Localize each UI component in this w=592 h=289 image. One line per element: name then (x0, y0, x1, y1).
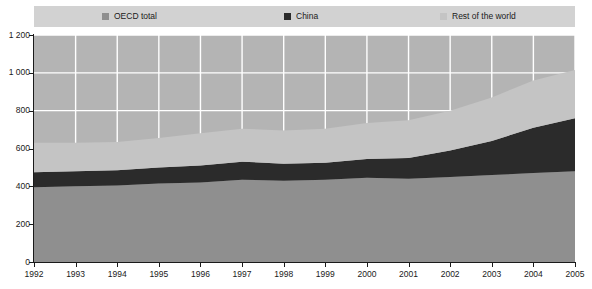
x-tick-label-2004: 2004 (513, 270, 553, 279)
x-tick-2003 (492, 263, 493, 267)
y-tick-200 (29, 224, 34, 225)
legend-item-china[interactable]: China (284, 6, 318, 27)
x-tick-label-2003: 2003 (472, 270, 512, 279)
x-axis-line (33, 262, 576, 263)
x-tick-label-1993: 1993 (56, 270, 96, 279)
x-tick-label-2000: 2000 (347, 270, 387, 279)
y-axis-tick-labels: 02004006008001 0001 200 (0, 0, 30, 289)
y-tick-label-0: 0 (0, 258, 30, 267)
chart-figure: OECD total China Rest of the world 02004… (0, 0, 592, 289)
x-tick-2002 (450, 263, 451, 267)
legend-label-oecd-total: OECD total (114, 12, 157, 21)
x-tick-2000 (367, 263, 368, 267)
x-tick-label-1994: 1994 (97, 270, 137, 279)
x-tick-label-1996: 1996 (180, 270, 220, 279)
legend-item-oecd-total[interactable]: OECD total (102, 6, 157, 27)
x-tick-2004 (533, 263, 534, 267)
x-tick-label-1992: 1992 (14, 270, 54, 279)
plot-area (34, 35, 575, 262)
y-tick-1200 (29, 35, 34, 36)
x-tick-2005 (575, 263, 576, 267)
x-tick-1995 (159, 263, 160, 267)
x-tick-1993 (76, 263, 77, 267)
x-tick-1998 (284, 263, 285, 267)
x-tick-1997 (242, 263, 243, 267)
x-tick-label-1997: 1997 (222, 270, 262, 279)
x-tick-label-1998: 1998 (264, 270, 304, 279)
legend-swatch-oecd-total (102, 13, 109, 20)
x-tick-label-2001: 2001 (389, 270, 429, 279)
legend-label-rest-of-the-world: Rest of the world (452, 12, 516, 21)
y-tick-label-1000: 1 000 (0, 68, 30, 77)
x-tick-2001 (409, 263, 410, 267)
legend-swatch-rest-of-the-world (440, 13, 447, 20)
y-tick-600 (29, 149, 34, 150)
y-tick-800 (29, 111, 34, 112)
y-tick-label-600: 600 (0, 144, 30, 153)
legend-swatch-china (284, 13, 291, 20)
y-tick-400 (29, 186, 34, 187)
x-tick-label-1995: 1995 (139, 270, 179, 279)
y-tick-1000 (29, 73, 34, 74)
stacked-area-series (34, 35, 575, 262)
chart-legend: OECD total China Rest of the world (34, 6, 575, 27)
legend-item-rest-of-the-world[interactable]: Rest of the world (440, 6, 516, 27)
y-tick-label-400: 400 (0, 182, 30, 191)
y-tick-label-800: 800 (0, 106, 30, 115)
x-tick-1996 (200, 263, 201, 267)
y-tick-label-1200: 1 200 (0, 31, 30, 40)
x-tick-1994 (117, 263, 118, 267)
x-tick-label-2002: 2002 (430, 270, 470, 279)
legend-label-china: China (296, 12, 318, 21)
y-tick-label-200: 200 (0, 220, 30, 229)
x-tick-1999 (325, 263, 326, 267)
x-tick-1992 (34, 263, 35, 267)
x-tick-label-1999: 1999 (305, 270, 345, 279)
x-tick-label-2005: 2005 (555, 270, 592, 279)
